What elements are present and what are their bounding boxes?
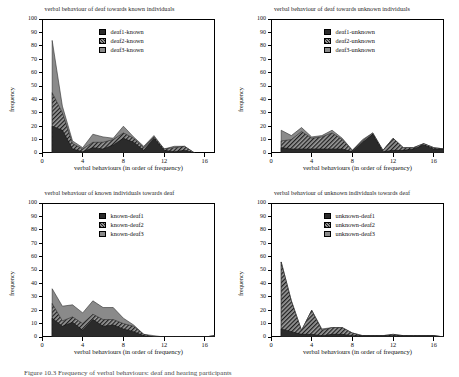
y-tick xyxy=(39,32,43,33)
y-tick-label: 0 xyxy=(4,333,37,339)
y-tick-label: 10 xyxy=(233,136,266,142)
x-axis-label: verbal behaviours (in order of frequency… xyxy=(42,164,215,171)
y-tick-label: 40 xyxy=(233,96,266,102)
y-tick xyxy=(39,243,43,244)
legend-swatch-series2-icon xyxy=(324,222,331,228)
legend-label: known-deaf2 xyxy=(111,221,144,228)
x-tick xyxy=(393,337,394,341)
x-tick-label: 0 xyxy=(261,157,281,164)
x-tick xyxy=(393,153,394,157)
y-tick xyxy=(268,45,272,46)
y-tick xyxy=(268,32,272,33)
y-tick xyxy=(39,203,43,204)
x-tick xyxy=(271,337,272,341)
x-tick-label: 12 xyxy=(383,157,403,164)
y-tick-label: 70 xyxy=(233,56,266,62)
y-tick-label: 90 xyxy=(233,213,266,219)
x-tick-label: 0 xyxy=(32,341,52,348)
y-tick-label: 100 xyxy=(4,199,37,205)
y-tick-label: 70 xyxy=(233,240,266,246)
legend-label: deaf1-unknown xyxy=(336,28,376,35)
y-tick xyxy=(268,323,272,324)
figure-caption: Figure 10.3 Frequency of verbal behaviou… xyxy=(24,369,444,377)
legend: unknown-deaf1 unknown-deaf2 unknown-deaf… xyxy=(324,212,375,240)
x-tick-label: 16 xyxy=(424,157,444,164)
panel-title: verbal behaviour of deaf towards unknown… xyxy=(227,6,457,12)
y-tick-label: 0 xyxy=(233,149,266,155)
y-tick-label: 30 xyxy=(4,109,37,115)
legend-item: unknown-deaf3 xyxy=(324,230,375,237)
y-tick-label: 90 xyxy=(4,213,37,219)
x-tick-label: 8 xyxy=(342,341,362,348)
y-tick xyxy=(39,283,43,284)
y-tick xyxy=(39,72,43,73)
legend-swatch-series2-icon xyxy=(324,38,331,44)
y-tick-label: 80 xyxy=(4,42,37,48)
x-tick-label: 8 xyxy=(113,341,133,348)
x-tick xyxy=(82,337,83,341)
y-tick xyxy=(39,229,43,230)
x-tick xyxy=(164,337,165,341)
x-axis-label: verbal behaviours (in order of frequency… xyxy=(271,348,444,355)
legend-item: known-deaf3 xyxy=(99,230,144,237)
legend-swatch-series3-icon xyxy=(99,47,106,53)
legend-label: known-deaf1 xyxy=(111,212,144,219)
figure-root: verbal behaviour of deaf towards known i… xyxy=(0,0,459,377)
x-tick-label: 4 xyxy=(73,341,93,348)
legend-label: deaf3-known xyxy=(111,46,144,53)
legend: deaf1-known deaf2-known deaf3-known xyxy=(99,28,144,56)
y-tick xyxy=(39,99,43,100)
legend-item: deaf1-known xyxy=(99,28,144,35)
y-tick xyxy=(268,310,272,311)
y-tick xyxy=(39,216,43,217)
legend-item: deaf1-unknown xyxy=(324,28,375,35)
y-tick xyxy=(268,19,272,20)
x-tick xyxy=(271,153,272,157)
legend-label: deaf2-unknown xyxy=(336,37,376,44)
y-tick xyxy=(268,126,272,127)
y-tick-label: 80 xyxy=(233,226,266,232)
y-tick-label: 100 xyxy=(233,199,266,205)
y-tick-label: 90 xyxy=(233,29,266,35)
legend-label: known-deaf3 xyxy=(111,230,144,237)
y-tick-label: 20 xyxy=(233,123,266,129)
x-tick xyxy=(164,153,165,157)
y-tick-label: 30 xyxy=(233,109,266,115)
legend-swatch-series1-icon xyxy=(99,29,106,35)
y-tick xyxy=(268,72,272,73)
y-tick xyxy=(268,139,272,140)
y-tick xyxy=(39,256,43,257)
y-tick-label: 70 xyxy=(4,240,37,246)
y-tick-label: 30 xyxy=(4,293,37,299)
y-tick xyxy=(268,112,272,113)
x-tick-label: 16 xyxy=(195,341,215,348)
y-tick xyxy=(39,323,43,324)
y-tick-label: 50 xyxy=(233,82,266,88)
y-tick xyxy=(268,296,272,297)
x-tick xyxy=(352,337,353,341)
y-tick xyxy=(268,283,272,284)
y-tick xyxy=(39,310,43,311)
legend: deaf1-unknown deaf2-unknown deaf3-unknow… xyxy=(324,28,375,56)
x-tick-label: 12 xyxy=(154,157,174,164)
legend-swatch-series3-icon xyxy=(324,47,331,53)
y-tick xyxy=(39,19,43,20)
legend-item: unknown-deaf1 xyxy=(324,212,375,219)
y-tick-label: 10 xyxy=(4,136,37,142)
x-tick xyxy=(311,337,312,341)
y-tick-label: 60 xyxy=(4,69,37,75)
y-tick-label: 20 xyxy=(4,123,37,129)
area-series2 xyxy=(281,262,444,337)
legend-label: deaf1-known xyxy=(111,28,144,35)
y-tick-label: 10 xyxy=(233,320,266,326)
y-tick-label: 30 xyxy=(233,293,266,299)
legend-label: deaf2-known xyxy=(111,37,144,44)
legend-item: deaf3-known xyxy=(99,46,144,53)
y-tick-label: 60 xyxy=(4,253,37,259)
legend-item: unknown-deaf2 xyxy=(324,221,375,228)
x-tick-label: 8 xyxy=(342,157,362,164)
x-tick xyxy=(82,153,83,157)
x-tick xyxy=(123,337,124,341)
x-tick-label: 4 xyxy=(73,157,93,164)
legend-item: deaf3-unknown xyxy=(324,46,375,53)
